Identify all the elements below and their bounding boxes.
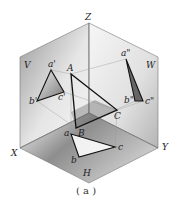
point-label-a-prime: a' [48,59,56,69]
plane-label-w: W [146,60,156,70]
point-label-c-prime: c' [58,92,66,102]
point-label-b-prime: b' [29,96,37,106]
point-label-a: a [64,128,69,138]
plane-label-h: H [82,168,91,178]
point-label-b: b [71,155,77,165]
point-label-A: A [66,63,74,73]
point-label-a-double-prime: a" [121,48,131,58]
point-label-c: c [118,142,123,152]
projection-diagram: Z X Y V W H A B C a' b' c' a" b" c" a b … [0,0,179,208]
axis-label-x: X [10,148,18,158]
point-label-c-double-prime: c" [145,96,154,106]
point-label-B: B [77,128,85,138]
point-label-b-double-prime: b" [124,95,134,105]
axis-label-z: Z [84,12,92,22]
axis-label-y: Y [162,142,169,152]
point-label-C: C [114,111,121,121]
figure-caption: ( a ) [76,185,96,196]
